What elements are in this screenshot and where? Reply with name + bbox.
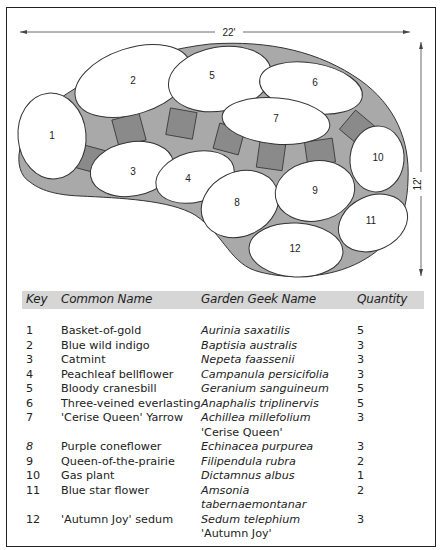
- row-scientific-name: Dictamnus albus: [201, 469, 295, 482]
- table-row: 3 Catmint Nepeta faassenii 3: [0, 353, 444, 368]
- row-key: 10: [26, 469, 40, 482]
- row-scientific-name: Achillea millefolium: [201, 411, 311, 424]
- row-quantity: 3: [357, 513, 364, 526]
- row-key: 2: [26, 339, 33, 352]
- header-key: Key: [26, 292, 47, 306]
- row-key: 1: [26, 324, 33, 337]
- row-quantity: 3: [357, 411, 364, 424]
- table-row: 10 Gas plant Dictamnus albus 1: [0, 469, 444, 484]
- row-common-name: Peachleaf bellflower: [61, 368, 173, 381]
- row-common-name: Blue star flower: [61, 484, 149, 497]
- row-common-name: 'Cerise Queen' Yarrow: [61, 411, 183, 424]
- row-key: 6: [26, 397, 33, 410]
- row-quantity: 5: [357, 397, 364, 410]
- row-common-name: Gas plant: [61, 469, 114, 482]
- table-row: 7 'Cerise Queen' Yarrow Achillea millefo…: [0, 411, 444, 426]
- svg-text:11: 11: [366, 215, 377, 226]
- row-scientific-name: Amsonia: [201, 484, 249, 497]
- table-row: 1 Basket-of-gold Aurinia saxatilis 5: [0, 324, 444, 339]
- svg-text:2: 2: [130, 75, 136, 86]
- row-key: 9: [26, 455, 33, 468]
- row-key: 3: [26, 353, 33, 366]
- width-dimension: 22': [20, 27, 410, 38]
- table-row: 8 Purple coneflower Echinacea purpurea 3: [0, 440, 444, 455]
- row-key: 11: [26, 484, 40, 497]
- row-key: 8: [26, 440, 33, 453]
- svg-text:6: 6: [312, 77, 318, 88]
- row-quantity: 2: [357, 484, 364, 497]
- row-scientific-name: Echinacea purpurea: [201, 440, 313, 453]
- table-row: 9 Queen-of-the-prairie Filipendula rubra…: [0, 455, 444, 470]
- plant-areas: [14, 31, 417, 279]
- svg-text:4: 4: [185, 173, 191, 184]
- table-row-continuation: 'Autumn Joy': [0, 527, 444, 542]
- row-quantity: 5: [357, 324, 364, 337]
- table-row-continuation: tabernaemontanar: [0, 498, 444, 513]
- garden-plan-diagram: 22' 12' 1 2 3 4 5: [0, 0, 444, 290]
- svg-text:3: 3: [130, 166, 136, 177]
- header-common-name: Common Name: [61, 292, 152, 306]
- row-quantity: 1: [357, 469, 364, 482]
- svg-text:8: 8: [234, 197, 240, 208]
- table-header: Key Common Name Garden Geek Name Quantit…: [22, 291, 424, 309]
- row-common-name: Purple coneflower: [61, 440, 161, 453]
- row-scientific-name: Campanula persicifolia: [201, 368, 329, 381]
- row-common-name: Blue wild indigo: [61, 339, 150, 352]
- row-quantity: 2: [357, 455, 364, 468]
- table-row: 11 Blue star flower Amsonia 2: [0, 484, 444, 499]
- row-scientific-name: Aurinia saxatilis: [201, 324, 290, 337]
- row-scientific-name: Filipendula rubra: [201, 455, 296, 468]
- row-quantity: 5: [357, 382, 364, 395]
- row-quantity: 3: [357, 368, 364, 381]
- header-quantity: Quantity: [357, 292, 407, 306]
- svg-text:12: 12: [289, 243, 301, 254]
- svg-text:5: 5: [209, 70, 215, 81]
- height-label: 12': [412, 177, 423, 190]
- width-label: 22': [222, 27, 235, 38]
- svg-text:10: 10: [372, 152, 384, 163]
- svg-text:7: 7: [273, 113, 279, 124]
- row-scientific-name: Baptisia australis: [201, 339, 297, 352]
- row-common-name: Bloody cranesbill: [61, 382, 157, 395]
- table-row: 2 Blue wild indigo Baptisia australis 3: [0, 339, 444, 354]
- table-row: 12 'Autumn Joy' sedum Sedum telephium 3: [0, 513, 444, 528]
- row-cultivar: 'Cerise Queen': [201, 426, 283, 439]
- svg-text:1: 1: [49, 130, 55, 141]
- row-common-name: Catmint: [61, 353, 106, 366]
- row-quantity: 3: [357, 339, 364, 352]
- row-scientific-name: Nepeta faassenii: [201, 353, 295, 366]
- row-common-name: Three-veined everlasting: [61, 397, 201, 410]
- table-row: 6 Three-veined everlasting Anaphalis tri…: [0, 397, 444, 412]
- row-cultivar: 'Autumn Joy': [201, 527, 272, 540]
- table-row-continuation: 'Cerise Queen': [0, 426, 444, 441]
- row-scientific-name: Geranium sanguineum: [201, 382, 329, 395]
- row-key: 7: [26, 411, 33, 424]
- svg-text:9: 9: [312, 185, 318, 196]
- header-scientific-name: Garden Geek Name: [201, 292, 316, 306]
- height-dimension: 12': [412, 42, 423, 276]
- row-quantity: 3: [357, 440, 364, 453]
- row-common-name: Queen-of-the-prairie: [61, 455, 175, 468]
- row-scientific-name: Anaphalis triplinervis: [201, 397, 319, 410]
- row-common-name: 'Autumn Joy' sedum: [61, 513, 173, 526]
- row-scientific-name: Sedum telephium: [201, 513, 300, 526]
- row-key: 5: [26, 382, 33, 395]
- table-row: 4 Peachleaf bellflower Campanula persici…: [0, 368, 444, 383]
- table-row: 5 Bloody cranesbill Geranium sanguineum …: [0, 382, 444, 397]
- row-quantity: 3: [357, 353, 364, 366]
- row-key: 12: [26, 513, 40, 526]
- row-key: 4: [26, 368, 33, 381]
- row-scientific-name-continued: tabernaemontanar: [201, 498, 306, 511]
- row-common-name: Basket-of-gold: [61, 324, 141, 337]
